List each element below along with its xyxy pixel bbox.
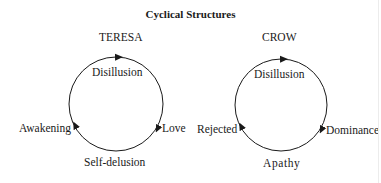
cycle-name-crow: CROW [262,32,297,44]
crow-right-label: Dominance [326,125,379,137]
teresa-left-label: Awakening [19,123,71,135]
cycle-name-teresa: TERESA [99,32,142,44]
cycle-diagrams [0,0,381,183]
crow-bottom-label: Apathy [263,158,300,170]
teresa-top-label: Disillusion [92,67,142,79]
teresa-bottom-label: Self-delusion [84,157,145,169]
crow-left-label: Rejected [197,124,237,136]
teresa-right-label: Love [162,123,186,135]
crow-top-label: Disillusion [254,69,304,81]
page-edge-divider [378,0,379,183]
